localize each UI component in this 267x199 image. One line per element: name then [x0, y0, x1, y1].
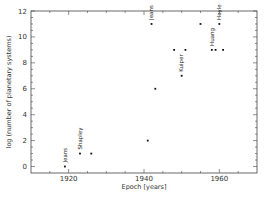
- scatter-chart: 192019401960024681012 JeansShapleyJeansK…: [0, 0, 267, 199]
- data-point: [185, 49, 187, 51]
- data-point: [218, 23, 220, 25]
- data-point: [147, 140, 149, 142]
- x-tick-label: 1920: [60, 175, 78, 183]
- y-tick-label: 0: [23, 163, 27, 171]
- data-point: [79, 153, 81, 155]
- data-point: [181, 75, 183, 77]
- x-tick-label: 1940: [135, 175, 153, 183]
- point-label: Jeans: [62, 148, 69, 164]
- data-point: [211, 49, 213, 51]
- y-axis-label: log (number of planetary systems): [5, 36, 13, 149]
- point-label: Jeans: [148, 5, 155, 21]
- point-annotations: JeansShapleyJeansKuiperHuangHoyle: [62, 4, 223, 164]
- point-label: Hoyle: [216, 4, 223, 20]
- data-point: [200, 23, 202, 25]
- y-tick-label: 6: [23, 85, 28, 93]
- data-point: [151, 23, 153, 25]
- x-tick-label: 1960: [210, 175, 228, 183]
- point-label: Shapley: [77, 127, 84, 150]
- data-points: [64, 23, 224, 167]
- data-point: [90, 153, 92, 155]
- data-point: [64, 166, 66, 168]
- x-axis-label: Epoch [years]: [122, 183, 167, 191]
- point-label: Huang: [209, 28, 216, 46]
- y-tick-label: 12: [18, 8, 27, 16]
- data-point: [154, 88, 156, 90]
- y-tick-label: 10: [18, 33, 27, 41]
- data-point: [222, 49, 224, 51]
- y-tick-label: 4: [23, 111, 28, 119]
- tick-labels: 192019401960024681012: [18, 8, 228, 184]
- data-point: [215, 49, 217, 51]
- point-label: Kuiper: [178, 54, 185, 72]
- y-tick-label: 8: [23, 59, 27, 67]
- data-point: [173, 49, 175, 51]
- y-tick-label: 2: [23, 137, 27, 145]
